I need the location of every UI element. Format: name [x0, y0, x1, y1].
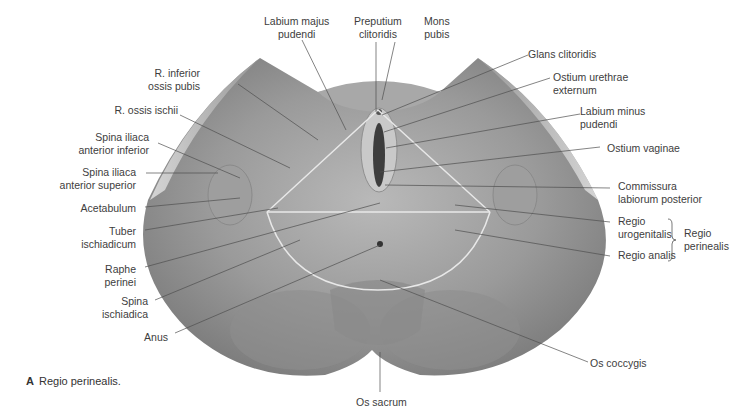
label-line: Mons [424, 15, 450, 28]
label-line: Regio [618, 215, 672, 228]
label-labium-minus-pudendi: Labium minus pudendi [580, 105, 645, 130]
label-line: R. inferior [148, 67, 200, 80]
caption-letter: A [26, 375, 34, 387]
label-line: perinealis [684, 240, 729, 253]
label-ostium-urethrae-externum: Ostium urethrae externum [553, 71, 628, 96]
label-line: urogenitalis [618, 228, 672, 241]
label-line: ischiadicum [81, 238, 136, 251]
label-line: Spina [102, 295, 148, 308]
label-line: Spina iliaca [60, 166, 136, 179]
label-line: Preputium [354, 15, 402, 28]
figure-caption: ARegio perinealis. [26, 375, 121, 387]
label-line: Labium minus [580, 105, 645, 118]
anatomical-figure: Labium majus pudendi Preputium clitoridi… [0, 0, 744, 418]
label-spina-ischiadica: Spina ischiadica [102, 295, 148, 320]
label-acetabulum: Acetabulum [81, 202, 136, 215]
label-line: anterior superior [60, 179, 136, 192]
label-ostium-vaginae: Ostium vaginae [607, 142, 680, 155]
label-line: labiorum posterior [618, 193, 702, 206]
label-spina-iliaca-anterior-inferior: Spina iliaca anterior inferior [78, 131, 149, 156]
label-os-sacrum: Os sacrum [356, 396, 407, 409]
label-r-ossis-ischii: R. ossis ischii [114, 104, 178, 117]
label-line: Raphe [104, 263, 136, 276]
label-line: Os coccygis [590, 357, 647, 370]
label-line: Regio [684, 227, 729, 240]
label-spina-iliaca-anterior-superior: Spina iliaca anterior superior [60, 166, 136, 191]
label-os-coccygis: Os coccygis [590, 357, 647, 370]
label-glans-clitoridis: Glans clitoridis [528, 48, 596, 61]
body-silhouette [143, 58, 606, 376]
label-raphe-perinei: Raphe perinei [104, 263, 136, 288]
label-line: Anus [144, 331, 168, 344]
label-regio-perinealis: Regio perinealis [684, 227, 729, 252]
label-line: perinei [104, 276, 136, 289]
label-line: pudendi [580, 118, 645, 131]
label-commissura-labiorum-posterior: Commissura labiorum posterior [618, 180, 702, 205]
label-line: Acetabulum [81, 202, 136, 215]
label-line: Spina iliaca [78, 131, 149, 144]
label-r-inferior-ossis-pubis: R. inferior ossis pubis [148, 67, 200, 92]
label-labium-majus: Labium majus pudendi [264, 15, 329, 40]
label-line: ischiadica [102, 308, 148, 321]
label-line: ossis pubis [148, 80, 200, 93]
label-line: Glans clitoridis [528, 48, 596, 61]
label-mons-pubis: Mons pubis [424, 15, 450, 40]
label-regio-urogenitalis: Regio urogenitalis [618, 215, 672, 240]
label-line: Labium majus [264, 15, 329, 28]
label-line: pudendi [264, 28, 329, 41]
label-anus: Anus [144, 331, 168, 344]
label-line: Ostium vaginae [607, 142, 680, 155]
label-tuber-ischiadicum: Tuber ischiadicum [81, 225, 136, 250]
label-line: Tuber [81, 225, 136, 238]
label-line: clitoridis [354, 28, 402, 41]
label-preputium: Preputium clitoridis [354, 15, 402, 40]
label-line: Os sacrum [356, 396, 407, 409]
label-line: anterior inferior [78, 144, 149, 157]
label-line: Ostium urethrae [553, 71, 628, 84]
caption-text: Regio perinealis. [39, 375, 121, 387]
label-line: R. ossis ischii [114, 104, 178, 117]
label-line: pubis [424, 28, 450, 41]
label-line: externum [553, 84, 628, 97]
brace-icon [667, 218, 677, 262]
label-line: Commissura [618, 180, 702, 193]
